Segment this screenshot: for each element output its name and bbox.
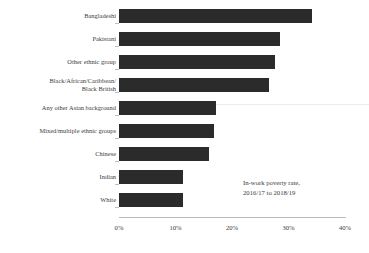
chart-row: Chinese (0, 146, 369, 169)
category-label-line1: Other ethnic group (67, 58, 116, 65)
annotation-line1: In-work poverty rate, (243, 179, 300, 186)
chart-row: Any other Asian background (0, 100, 369, 123)
axis-tick (115, 115, 119, 116)
axis-tick (115, 92, 119, 93)
x-tick-label-40: 40% (325, 224, 365, 231)
x-tick-label-30: 30% (269, 224, 309, 231)
annotation-line2: 2016/17 to 2018/19 (243, 189, 295, 196)
axis-tick (115, 161, 119, 162)
chart-row: Black/African/Caribbean/ Black British (0, 77, 369, 100)
category-label: Any other Asian background (4, 104, 116, 111)
x-tick-label-0: 0% (99, 224, 139, 231)
bar-pakistani[interactable] (119, 32, 280, 46)
category-label-line1: Chinese (95, 150, 116, 157)
category-label-line1: Bangladeshi (84, 12, 116, 19)
bar-bangladeshi[interactable] (119, 9, 312, 23)
category-label: Black/African/Caribbean/ Black British (4, 77, 116, 92)
chart-row: Bangladeshi (0, 8, 369, 31)
bar-chinese[interactable] (119, 147, 209, 161)
axis-tick (115, 23, 119, 24)
bar-white[interactable] (119, 193, 183, 207)
axis-tick (115, 138, 119, 139)
bar-any-other-asian-background[interactable] (119, 101, 216, 115)
bar-black-african-caribbean-black-british[interactable] (119, 78, 269, 92)
bar-mixed-multiple-ethnic-groups[interactable] (119, 124, 214, 138)
axis-tick (115, 46, 119, 47)
bar-other-ethnic-group[interactable] (119, 55, 275, 69)
chart-annotation: In-work poverty rate, 2016/17 to 2018/19 (243, 178, 300, 197)
category-label-line1: Any other Asian background (42, 104, 116, 111)
category-label-line1: Indian (100, 173, 116, 180)
category-label-line2: Black British (82, 85, 116, 92)
category-label: White (4, 196, 116, 203)
category-label: Mixed/multiple ethnic groups (4, 127, 116, 134)
x-tick-label-20: 20% (212, 224, 252, 231)
axis-tick (115, 69, 119, 70)
bar-indian[interactable] (119, 170, 183, 184)
bar-chart: Bangladeshi Pakistani Other ethnic group… (0, 0, 193, 253)
category-label-line1: White (100, 196, 116, 203)
axis-tick (115, 184, 119, 185)
chart-row: Indian (0, 169, 369, 192)
axis-tick (115, 207, 119, 208)
category-label-line1: Pakistani (92, 35, 116, 42)
category-label: Bangladeshi (4, 12, 116, 19)
category-label: Pakistani (4, 35, 116, 42)
x-axis-line (119, 217, 346, 218)
chart-row: Mixed/multiple ethnic groups (0, 123, 369, 146)
category-label-line1: Black/African/Caribbean/ (50, 77, 117, 84)
category-label: Chinese (4, 150, 116, 157)
category-label-line1: Mixed/multiple ethnic groups (39, 127, 116, 134)
category-label: Other ethnic group (4, 58, 116, 65)
x-tick-label-10: 10% (156, 224, 196, 231)
chart-row: White (0, 192, 369, 215)
category-label: Indian (4, 173, 116, 180)
chart-row: Other ethnic group (0, 54, 369, 77)
chart-row: Pakistani (0, 31, 369, 54)
